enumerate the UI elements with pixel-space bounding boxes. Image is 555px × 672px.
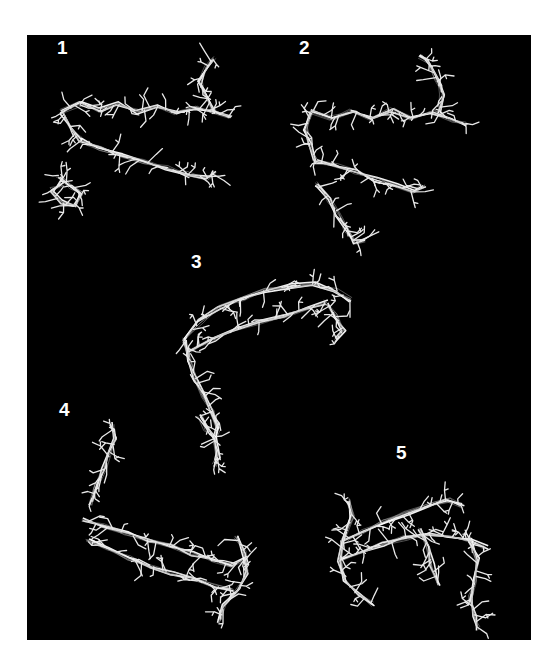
black-panel: [27, 35, 531, 640]
molecular-ensemble-figure: 1 2 3 4 5: [0, 0, 555, 672]
panel-label-5: 5: [396, 442, 407, 463]
panel-label-2: 2: [299, 37, 310, 58]
panel-label-1: 1: [57, 37, 68, 58]
panel-label-4: 4: [59, 399, 70, 420]
panel-label-3: 3: [191, 251, 202, 272]
